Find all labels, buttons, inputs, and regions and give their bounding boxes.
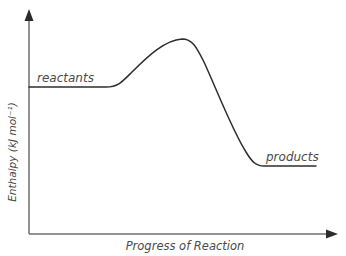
y-axis-label: Enthalpy (kJ mol⁻¹)	[6, 102, 18, 202]
products-label: products	[265, 150, 319, 164]
x-axis-arrow-icon	[326, 230, 338, 239]
y-axis-arrow-icon	[25, 9, 34, 21]
reaction-curve	[29, 39, 316, 166]
x-axis-label: Progress of Reaction	[126, 239, 245, 253]
energy-profile-diagram: reactants products Progress of Reaction …	[0, 0, 346, 256]
reactants-label: reactants	[37, 71, 94, 85]
